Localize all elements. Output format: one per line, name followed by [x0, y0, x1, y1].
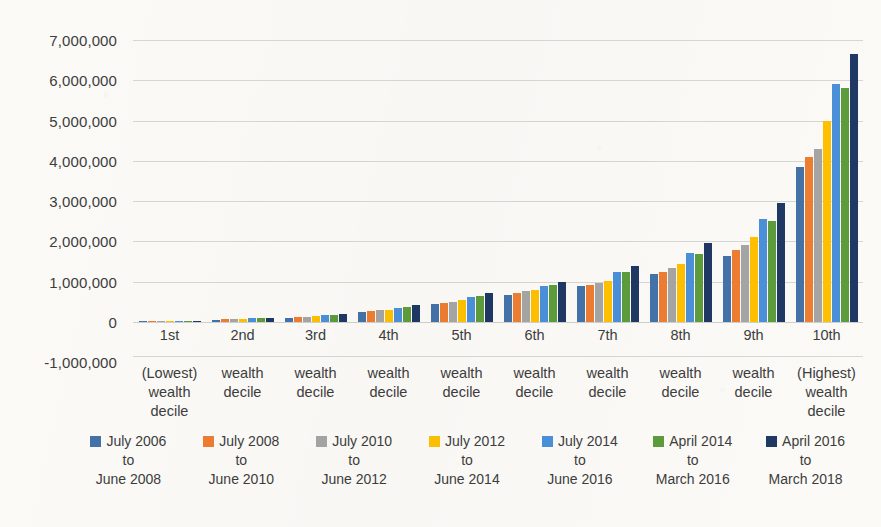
bar [431, 304, 439, 322]
legend-item[interactable]: July 2006toJune 2008 [72, 432, 185, 489]
bar [604, 281, 612, 322]
bar [403, 307, 411, 322]
bar [777, 203, 785, 322]
x-axis-category-sublabel: wealth [279, 364, 352, 383]
bar [358, 312, 366, 322]
legend-item-label: April 2014 [669, 432, 732, 451]
bar-group [133, 40, 206, 322]
bar [668, 268, 676, 322]
bar [796, 167, 804, 322]
bar [230, 319, 238, 322]
legend-item-label: July 2008 [219, 432, 279, 451]
legend-item[interactable]: July 2008toJune 2010 [185, 432, 298, 489]
legend-item-label: July 2006 [106, 432, 166, 451]
bar [650, 274, 658, 322]
bar [549, 285, 557, 322]
bar [622, 272, 630, 322]
x-axis-category-rank: 6th [498, 326, 571, 345]
x-axis-category-sublabel: decile [644, 383, 717, 402]
bar [677, 264, 685, 322]
legend-item[interactable]: April 2014toMarch 2016 [636, 432, 749, 489]
x-axis-category-sublabel: decile [571, 383, 644, 402]
bar [266, 318, 274, 322]
bar [823, 121, 831, 322]
bar [613, 272, 621, 322]
legend-color-swatch-icon [766, 436, 777, 447]
bar [339, 314, 347, 322]
y-axis-tick-label: 5,000,000 [49, 112, 117, 129]
legend-item[interactable]: July 2012toJune 2014 [411, 432, 524, 489]
bar [723, 256, 731, 322]
bar [221, 319, 229, 322]
x-axis-category-sublabel: decile [352, 383, 425, 402]
bar [321, 315, 329, 322]
bar [303, 317, 311, 322]
y-axis-tick-label: 4,000,000 [49, 152, 117, 169]
bar [814, 149, 822, 322]
bar [759, 219, 767, 322]
legend-color-swatch-icon [653, 436, 664, 447]
legend-item[interactable]: July 2014toJune 2016 [523, 432, 636, 489]
x-axis-category-sublabel: wealth [717, 364, 790, 383]
y-axis-tick-label: 6,000,000 [49, 72, 117, 89]
x-axis-category-rank: 8th [644, 326, 717, 345]
bar [841, 88, 849, 322]
x-axis-category-rank: 10th [790, 326, 863, 345]
legend-color-swatch-icon [429, 436, 440, 447]
bar-group [644, 40, 717, 322]
x-axis-category-sublabel: wealth [571, 364, 644, 383]
x-axis-category-rank: 2nd [206, 326, 279, 345]
wealth-decile-bar-chart: 7,000,0006,000,0005,000,0004,000,0003,00… [0, 0, 881, 527]
x-axis-category-sublabel: wealth [206, 364, 279, 383]
legend-item-label: April 2016 [782, 432, 845, 451]
bar [157, 321, 165, 322]
y-axis-tick-label: 7,000,000 [49, 32, 117, 49]
x-axis-category-sublabel: decile [717, 383, 790, 402]
bar [504, 295, 512, 322]
bar [367, 311, 375, 322]
x-axis-category-label: 9th wealthdecile [717, 326, 790, 421]
legend-item-label: to [636, 451, 749, 470]
legend-item-label: to [185, 451, 298, 470]
legend-item[interactable]: July 2010toJune 2012 [298, 432, 411, 489]
legend-item-label: June 2016 [523, 470, 636, 489]
x-axis-label-spacer [206, 345, 279, 364]
legend-item-label: March 2016 [636, 470, 749, 489]
bar [558, 282, 566, 322]
bar [385, 310, 393, 322]
bar-group [717, 40, 790, 322]
x-axis-label-spacer [717, 345, 790, 364]
x-axis-label-spacer [352, 345, 425, 364]
bar [686, 253, 694, 322]
legend-item-label: June 2012 [298, 470, 411, 489]
bar [805, 157, 813, 322]
legend-item-header: July 2014 [523, 432, 636, 451]
x-axis-category-label: 3rd wealthdecile [279, 326, 352, 421]
bar [376, 310, 384, 322]
bar-group [498, 40, 571, 322]
y-axis-tick-label: 2,000,000 [49, 233, 117, 250]
bar [832, 84, 840, 322]
bar [522, 291, 530, 322]
chart-legend: July 2006toJune 2008July 2008toJune 2010… [72, 432, 862, 489]
bar [467, 297, 475, 322]
bar [449, 302, 457, 322]
bar-group [790, 40, 863, 322]
bar-group [352, 40, 425, 322]
legend-item-label: to [411, 451, 524, 470]
bar-group [425, 40, 498, 322]
legend-item-header: July 2012 [411, 432, 524, 451]
x-axis-category-sublabel: wealth [644, 364, 717, 383]
bar [312, 316, 320, 322]
x-axis-labels: 1st (Lowest)wealthdecile2nd wealthdecile… [133, 326, 863, 421]
x-axis-category-sublabel: wealth [133, 383, 206, 402]
x-axis-category-sublabel: (Lowest) [133, 364, 206, 383]
bar [184, 321, 192, 322]
legend-item[interactable]: April 2016toMarch 2018 [749, 432, 862, 489]
x-axis-category-sublabel: wealth [790, 383, 863, 402]
legend-item-label: July 2010 [332, 432, 392, 451]
bar [531, 290, 539, 322]
legend-color-swatch-icon [316, 436, 327, 447]
x-axis-category-label: 8th wealthdecile [644, 326, 717, 421]
x-axis-label-spacer [498, 345, 571, 364]
